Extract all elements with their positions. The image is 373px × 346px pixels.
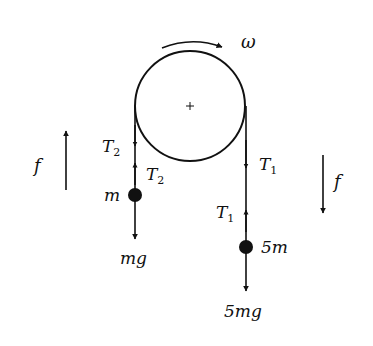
svg-text:T2: T2 bbox=[102, 136, 120, 159]
5mg-label: 5mg bbox=[224, 301, 262, 321]
omega-label: ω bbox=[241, 31, 256, 52]
mass-m bbox=[128, 188, 142, 202]
svg-text:T1: T1 bbox=[216, 202, 234, 225]
mass-5m-label: 5m bbox=[261, 237, 288, 257]
friction-right-label: f bbox=[332, 171, 344, 192]
pulley bbox=[135, 51, 245, 161]
diagram-svg: ω T2 T2 m mg f T1 T1 5m 5mg bbox=[0, 0, 373, 346]
mass-m-label: m bbox=[104, 185, 120, 205]
pulley-diagram: ω T2 T2 m mg f T1 T1 5m 5mg bbox=[0, 0, 373, 346]
svg-text:T2: T2 bbox=[146, 164, 164, 187]
friction-left-label: f bbox=[32, 155, 44, 176]
clockwise-arrow-icon bbox=[162, 42, 222, 48]
mg-label: mg bbox=[120, 248, 147, 268]
rotation-arrow: ω bbox=[162, 31, 256, 52]
svg-text:T1: T1 bbox=[259, 154, 277, 177]
left-side: T2 T2 m mg f bbox=[32, 106, 164, 268]
mass-5m bbox=[239, 240, 253, 254]
